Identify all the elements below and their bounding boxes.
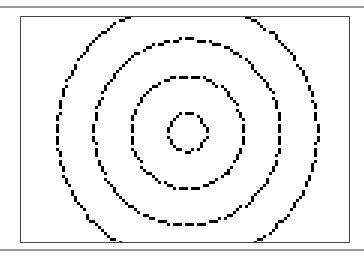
top-divider (0, 6, 364, 8)
figure-frame (20, 16, 350, 243)
ring-3 (92, 37, 281, 226)
ring-1 (167, 112, 209, 154)
bottom-divider (0, 249, 364, 251)
concentric-rings-graphic (21, 17, 349, 242)
ring-2 (131, 76, 245, 190)
